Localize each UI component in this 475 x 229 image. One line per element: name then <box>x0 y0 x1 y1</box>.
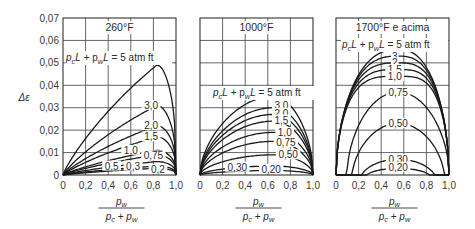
chart-panel-1: 3,02,01,51,00,750,50,30,2260°FpcL + pwL … <box>40 13 184 225</box>
y-tick-label: 0,02 <box>40 125 60 136</box>
y-tick-label: 0,07 <box>40 13 60 24</box>
panel-title: 260°F <box>105 21 133 33</box>
x-tick-label: 0,6 <box>261 180 275 191</box>
annotation: pcL + pwL = 5 atm ft <box>212 86 319 101</box>
x-tick-label: 0,6 <box>397 180 411 191</box>
curve-label: 0,2 <box>151 164 165 175</box>
curve-label: 1,0 <box>388 71 402 82</box>
x-tick-label: 0,2 <box>79 180 93 191</box>
annotation: pcL + pwL = 5 atm ft <box>65 51 172 66</box>
x-tick-label: 0,8 <box>146 180 160 191</box>
panel-title: 1700°F e acima <box>356 21 430 33</box>
y-tick-label: 0,04 <box>40 80 60 91</box>
curve-label: 0,20 <box>388 162 408 173</box>
curves <box>200 97 313 176</box>
y-axis-label: Δε <box>17 92 30 103</box>
x-label-numerator: pw <box>388 196 401 209</box>
x-tick-label: 0 <box>197 180 203 191</box>
y-tick-label: 0 <box>53 170 59 181</box>
x-axis-label: pwpc + pw <box>99 196 145 224</box>
x-axis-label: pwpc + pw <box>236 196 282 224</box>
x-tick-label: 0 <box>60 180 66 191</box>
x-tick-label: 0,4 <box>238 180 252 191</box>
x-tick-label: 0,2 <box>352 180 366 191</box>
x-label-denominator: pc + pw <box>105 211 138 224</box>
y-tick-label: 0,03 <box>40 102 60 113</box>
curve-label: 0,50 <box>388 118 408 129</box>
y-tick-label: 0,06 <box>40 35 60 46</box>
curve-label: 0,75 <box>276 137 296 148</box>
curve-label: 1,0 <box>124 145 138 156</box>
curve-label: 0,20 <box>261 164 281 175</box>
x-tick-label: 0,6 <box>124 180 138 191</box>
x-tick-label: 1,0 <box>306 180 320 191</box>
chart-figure: 3,02,01,51,00,750,50,30,2260°FpcL + pwL … <box>0 0 475 229</box>
y-tick-label: 0,01 <box>40 147 60 158</box>
x-tick-label: 0,8 <box>419 180 433 191</box>
panel-title: 1000°F <box>240 21 274 33</box>
curve-label: 0,75 <box>388 87 408 98</box>
curve-label: 0,75 <box>144 150 164 161</box>
curve-label: 0,5 <box>105 161 119 172</box>
x-tick-label: 1,0 <box>169 180 183 191</box>
curve-label: 1,5 <box>274 115 288 126</box>
annotation: pcL + pwL = 5 atm ft <box>341 38 448 53</box>
x-label-numerator: pw <box>252 196 265 209</box>
x-axis-label: pwpc + pw <box>372 196 418 224</box>
x-tick-label: 0,8 <box>283 180 297 191</box>
x-tick-label: 0,4 <box>374 180 388 191</box>
curve-label: 0,50 <box>278 149 298 160</box>
curve-label: 0,30 <box>228 162 248 173</box>
x-label-denominator: pc + pw <box>378 211 411 224</box>
curve-0,20 <box>200 171 313 176</box>
curve-label: 3,0 <box>144 100 158 111</box>
curve-label: 0,3 <box>126 161 140 172</box>
x-tick-label: 0,2 <box>216 180 230 191</box>
y-tick-label: 0,05 <box>40 57 60 68</box>
x-label-numerator: pw <box>115 196 128 209</box>
x-tick-label: 0 <box>333 180 339 191</box>
curve-label: 2,0 <box>144 120 158 131</box>
x-label-denominator: pc + pw <box>242 211 275 224</box>
x-tick-label: 1,0 <box>442 180 456 191</box>
chart-panel-2: 3,02,01,51,00,750,500,300,201000°FpcL + … <box>197 18 320 224</box>
chart-panel-3: 321,51,00,750,500,300,201700°F e acimapc… <box>333 18 456 224</box>
curve-label: 1,5 <box>144 131 158 142</box>
x-tick-label: 0,4 <box>101 180 115 191</box>
